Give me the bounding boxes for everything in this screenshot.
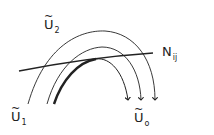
label-n-ij: Nij (162, 45, 177, 58)
diagram-svg (0, 0, 214, 135)
tilde-mark: ~ (134, 104, 143, 115)
label-u1: ~U1 (11, 110, 27, 123)
label-u0-sub: o (145, 119, 150, 128)
label-u1-sub: 1 (22, 118, 27, 127)
label-u0: ~Uo (134, 111, 149, 124)
outer-trajectory-arc (28, 31, 155, 104)
label-u2-sub: 2 (55, 26, 60, 35)
tilde-mark: ~ (44, 11, 53, 22)
diagram-canvas: ~U2 ~U1 ~Uo Nij (0, 0, 214, 135)
label-u2: ~U2 (44, 18, 60, 31)
label-n-sub: ij (173, 53, 177, 62)
inner-trajectory-thick-segment (54, 59, 96, 104)
label-n-base: N (162, 44, 172, 59)
tilde-mark: ~ (11, 103, 20, 114)
